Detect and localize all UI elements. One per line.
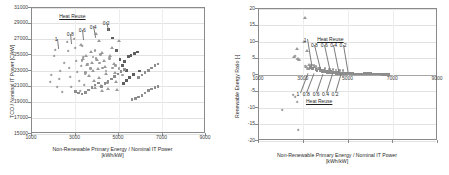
data-point <box>141 94 144 97</box>
data-point <box>157 63 160 66</box>
x-tick-mark <box>303 140 304 143</box>
data-point <box>98 62 101 65</box>
x-tick-mark <box>348 140 349 143</box>
data-point <box>92 56 95 59</box>
data-point <box>122 82 125 85</box>
data-point <box>113 75 116 78</box>
data-point <box>150 88 153 91</box>
y-axis-tick-label: 31000 <box>0 5 28 10</box>
data-point <box>107 80 110 83</box>
x-axis-tick-label: 1000 <box>244 76 272 81</box>
data-point <box>303 16 307 19</box>
data-point <box>97 76 101 79</box>
y-tick-mark <box>255 25 258 26</box>
x-axis-title-line2: [kWh/kW] <box>0 152 225 158</box>
y-axis-tick-label: 27000 <box>0 36 28 41</box>
data-point <box>97 82 100 85</box>
x-axis-title-line1: Non-Renewable Primary Energy / Nominal I… <box>225 152 449 158</box>
data-point <box>117 39 121 42</box>
data-point <box>123 68 126 71</box>
data-point <box>324 67 327 70</box>
data-point <box>281 109 284 112</box>
data-point <box>150 67 153 70</box>
y-axis-tick-label: 29000 <box>0 20 28 25</box>
x-axis-tick-label: 7000 <box>378 76 406 81</box>
x-axis-tick-label: 5000 <box>104 135 132 140</box>
data-point <box>86 63 89 66</box>
annotation-heat-reuse-value: 1 <box>297 92 300 98</box>
data-point <box>67 66 70 69</box>
y-tick-mark <box>255 107 258 108</box>
data-point <box>79 65 82 68</box>
data-point <box>110 78 113 81</box>
data-point <box>123 60 126 63</box>
data-point <box>134 97 137 100</box>
data-point <box>52 54 55 57</box>
x-axis-title-line1: Non-Renewable Primary Energy / Nominal I… <box>0 146 225 152</box>
y-axis-title: TCO / Nominal IT Power [C/kW] <box>9 45 15 118</box>
annotation-leader-line <box>57 39 59 49</box>
data-point <box>137 76 140 79</box>
x-axis-tick-label: 9000 <box>191 135 219 140</box>
data-point <box>157 85 160 88</box>
data-point <box>104 72 108 75</box>
data-point <box>296 128 299 131</box>
data-point <box>94 49 97 52</box>
data-point <box>121 64 124 67</box>
data-point <box>49 80 52 83</box>
y-tick-mark <box>28 117 31 118</box>
data-point <box>81 59 84 62</box>
x-tick-mark <box>392 140 393 143</box>
y-tick-mark <box>255 124 258 125</box>
data-point <box>115 49 118 52</box>
data-point <box>106 87 110 90</box>
data-point <box>61 91 64 94</box>
y-tick-mark <box>28 54 31 55</box>
data-point <box>117 73 120 76</box>
data-point <box>84 54 88 57</box>
data-point <box>100 85 103 88</box>
data-point <box>87 74 91 77</box>
plot-frame-tco: Heat Reuse10.80.60.40.2 <box>31 7 205 133</box>
gridline-vertical <box>162 8 163 132</box>
data-point <box>144 92 147 95</box>
data-point <box>66 50 69 53</box>
data-point <box>53 48 56 51</box>
y-tick-mark <box>255 8 258 9</box>
data-point <box>79 43 83 46</box>
data-point <box>120 70 123 73</box>
data-point <box>97 39 101 42</box>
data-point <box>147 89 150 92</box>
data-point <box>65 41 68 44</box>
data-point <box>132 73 135 76</box>
y-tick-mark <box>28 7 31 8</box>
y-axis-tick-label: 15 <box>224 22 255 27</box>
data-point <box>110 46 114 49</box>
data-point <box>84 71 87 74</box>
data-point <box>63 61 66 64</box>
data-point <box>332 68 335 71</box>
data-point <box>81 93 84 96</box>
x-axis-tick-label: 3000 <box>61 135 89 140</box>
data-point <box>114 80 118 83</box>
data-point <box>87 89 90 92</box>
data-point <box>121 74 124 77</box>
data-point <box>75 60 78 63</box>
data-point <box>154 64 157 67</box>
y-axis-tick-label: -15 <box>224 121 255 126</box>
data-point <box>128 76 131 79</box>
data-point <box>90 61 94 64</box>
data-point <box>100 89 104 92</box>
y-axis-tick-label: 10 <box>224 39 255 44</box>
data-point <box>111 67 114 70</box>
data-point <box>91 86 94 89</box>
plot-frame-rer: Heat Reuse10.80.60.40.210.80.60.40.2Heat… <box>258 8 437 140</box>
y-tick-mark <box>28 102 31 103</box>
data-point <box>84 91 87 94</box>
annotation-heat-reuse-title: Heat Reuse <box>306 99 332 105</box>
data-point <box>77 80 80 83</box>
data-point <box>94 84 97 87</box>
data-point <box>99 53 102 56</box>
data-point <box>111 37 114 40</box>
annotation-heat-reuse-title: Heat Reuse <box>59 14 85 20</box>
